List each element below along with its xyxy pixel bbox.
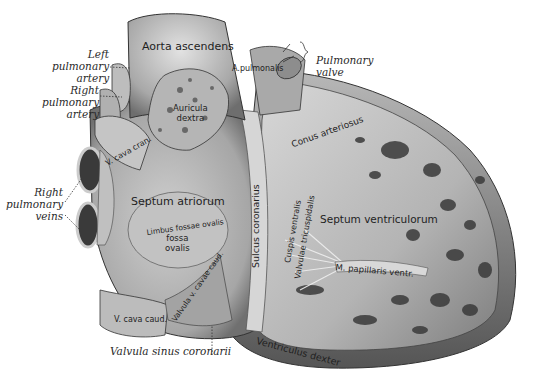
label-right-pulmonary-veins: Right pulmonary veins xyxy=(6,186,63,222)
label-fossa-ovalis: fossa ovalis xyxy=(165,233,190,253)
heart-illustration: Left pulmonary artery Right pulmonary ar… xyxy=(0,0,543,385)
label-line: Right xyxy=(6,186,63,198)
label-line: pulmonary xyxy=(6,198,63,210)
label-septum-ventriculorum: Septum ventriculorum xyxy=(320,213,438,225)
label-line: Pulmonary xyxy=(316,54,373,66)
label-line: fossa xyxy=(165,233,190,243)
label-right-pulmonary-artery: Right pulmonary artery xyxy=(42,84,99,120)
label-valvula-sinus-coronarii: Valvula sinus coronarii xyxy=(110,345,231,357)
label-aorta-ascendens: Aorta ascendens xyxy=(142,40,234,53)
label-line: Auricula xyxy=(173,103,208,113)
label-sulcus-coronarius: Sulcus coronarius xyxy=(250,184,261,268)
label-line: Left xyxy=(52,48,109,60)
label-auricula-dextra: Auricula dextra xyxy=(173,103,208,123)
label-line: ovalis xyxy=(165,243,190,253)
label-line: veins xyxy=(6,210,63,222)
label-line: Right xyxy=(42,84,99,96)
label-septum-atriorum: Septum atriorum xyxy=(131,195,225,208)
label-a-pulmonalis: A.pulmonalis xyxy=(232,64,284,73)
label-left-pulmonary-artery: Left pulmonary artery xyxy=(52,48,109,84)
label-line: pulmonary xyxy=(52,60,109,72)
pulmonary-vein-lower xyxy=(77,203,99,247)
label-line: pulmonary xyxy=(42,96,99,108)
label-pulmonary-valve: Pulmonary valve xyxy=(316,54,373,78)
label-v-cava-caud: V. cava caud. xyxy=(114,315,167,324)
pulmonary-vein-upper xyxy=(78,148,102,192)
label-line: artery xyxy=(52,72,109,84)
pulmonary-trunk xyxy=(250,46,305,115)
label-line: artery xyxy=(42,108,99,120)
label-line: valve xyxy=(316,66,373,78)
label-line: dextra xyxy=(173,113,208,123)
